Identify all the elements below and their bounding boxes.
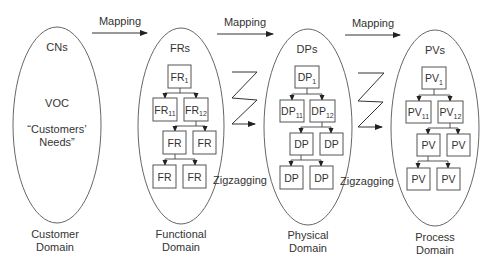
svg-text:FR: FR xyxy=(158,171,172,183)
svg-text:PV: PV xyxy=(421,139,435,151)
mapping-label: Mapping xyxy=(352,17,394,29)
domain-diagram: Mapping Mapping Mapping CNs VOC “Custome… xyxy=(0,0,489,265)
process-domain: PVs PV1 PV11 PV12 PV PV xyxy=(391,30,479,256)
svg-text:FR: FR xyxy=(198,137,212,149)
zigzag-label: Zigzagging xyxy=(340,175,394,187)
connector xyxy=(419,89,450,95)
svg-text:FR: FR xyxy=(188,171,202,183)
svg-text:DP: DP xyxy=(324,138,339,150)
dp-box: DP xyxy=(290,133,313,155)
dp-11-box: DP11 xyxy=(280,100,304,122)
domain-title: PVs xyxy=(425,44,446,56)
domain-title: DPs xyxy=(297,43,318,55)
fr-box: FR xyxy=(183,165,206,188)
domain-name-line1: Physical xyxy=(288,229,329,241)
svg-text:DP: DP xyxy=(314,172,329,184)
domain-name-line2: Domain xyxy=(162,241,200,253)
mapping-label: Mapping xyxy=(224,16,266,28)
svg-text:PV: PV xyxy=(441,173,455,185)
svg-text:PV: PV xyxy=(451,139,465,151)
customers-needs-line2: Needs” xyxy=(39,136,75,148)
connector xyxy=(165,154,195,159)
voc-text: VOC xyxy=(45,97,69,109)
mapping-label: Mapping xyxy=(99,15,141,27)
zigzag-arrow-icon xyxy=(358,73,384,127)
domain-title: FRs xyxy=(170,42,191,54)
mapping-arrow-1: Mapping xyxy=(92,15,147,33)
pv-box: PV xyxy=(447,134,470,156)
domain-name-line1: Process xyxy=(415,231,455,243)
pv-11-box: PV11 xyxy=(406,101,431,123)
pv-box: PV xyxy=(417,134,440,156)
svg-text:PV: PV xyxy=(411,173,425,185)
dp-12-box: DP12 xyxy=(310,100,335,122)
fr-12-box: FR12 xyxy=(184,98,208,121)
domain-name-line2: Domain xyxy=(36,241,74,253)
connector xyxy=(175,121,205,126)
dp-1-box: DP1 xyxy=(295,66,319,88)
mapping-arrow-3: Mapping xyxy=(345,17,400,35)
domain-title: CNs xyxy=(46,41,68,53)
pv-box: PV xyxy=(407,168,430,190)
connector xyxy=(292,88,322,94)
domain-name-line2: Domain xyxy=(416,244,454,256)
pv-1-box: PV1 xyxy=(422,67,446,89)
connector xyxy=(301,122,331,127)
dp-box: DP xyxy=(320,133,343,155)
svg-text:DP: DP xyxy=(284,172,299,184)
physical-domain: DPs DP1 DP11 DP12 DP DP xyxy=(264,29,352,254)
domain-name-line1: Customer xyxy=(31,228,79,240)
connector xyxy=(428,123,458,128)
functional-domain: FRs FR1 FR11 FR12 FR FR xyxy=(138,28,224,253)
dp-box: DP xyxy=(310,166,333,189)
fr-box: FR xyxy=(153,165,176,188)
fr-11-box: FR11 xyxy=(153,98,177,121)
zigzag-label: Zigzagging xyxy=(213,174,267,186)
connector xyxy=(165,88,196,93)
fr-1-box: FR1 xyxy=(168,65,191,88)
domain-name-line1: Functional xyxy=(156,228,207,240)
connector xyxy=(291,155,321,160)
customer-domain: CNs VOC “Customers’ Needs” Customer Doma… xyxy=(13,27,101,253)
connector xyxy=(418,156,448,161)
customers-needs-line1: “Customers’ xyxy=(27,123,86,135)
domain-name-line2: Domain xyxy=(289,242,327,254)
fr-box: FR xyxy=(193,131,216,154)
zigzag-arrow-icon xyxy=(232,72,257,124)
svg-text:DP: DP xyxy=(294,138,309,150)
fr-box: FR xyxy=(163,131,186,154)
dp-box: DP xyxy=(280,166,303,189)
pv-box: PV xyxy=(437,168,460,190)
mapping-arrow-2: Mapping xyxy=(217,16,273,34)
pv-12-box: PV12 xyxy=(438,101,463,123)
svg-text:FR: FR xyxy=(168,137,182,149)
